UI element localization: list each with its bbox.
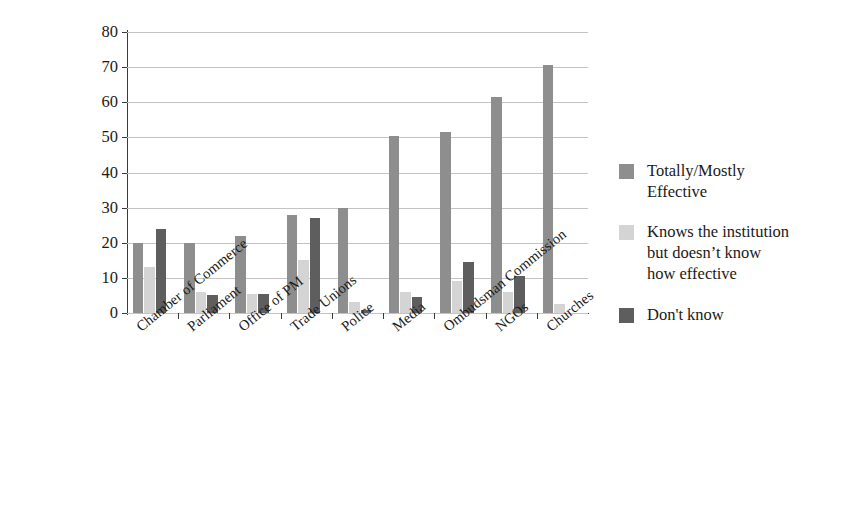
y-axis-tick-label: 80 bbox=[102, 24, 119, 41]
x-axis-tick-mark bbox=[383, 313, 384, 319]
y-axis-tick-label: 20 bbox=[102, 235, 119, 252]
y-axis-tick-label: 30 bbox=[102, 199, 119, 216]
legend-item: Knows the institution but doesn’t know h… bbox=[619, 221, 834, 284]
y-axis-tick-label: 70 bbox=[102, 59, 119, 76]
legend-color-swatch bbox=[619, 308, 634, 323]
bar bbox=[440, 132, 451, 313]
legend-color-swatch bbox=[619, 164, 634, 179]
gridline bbox=[127, 137, 588, 138]
y-axis-tick-mark bbox=[122, 102, 127, 103]
x-axis-tick-mark bbox=[332, 313, 333, 319]
y-axis-tick-label: 60 bbox=[102, 94, 119, 111]
x-axis-tick-mark bbox=[178, 313, 179, 319]
y-axis-tick-label: 40 bbox=[102, 164, 119, 181]
gridline bbox=[127, 32, 588, 33]
gridline bbox=[127, 208, 588, 209]
gridline bbox=[127, 243, 588, 244]
y-axis-tick-mark bbox=[122, 313, 127, 314]
legend-color-swatch bbox=[619, 225, 634, 240]
y-axis-tick-mark bbox=[122, 173, 127, 174]
bar bbox=[543, 65, 554, 313]
x-axis-tick-mark bbox=[434, 313, 435, 319]
legend-label: Don't know bbox=[647, 304, 724, 325]
gridline bbox=[127, 102, 588, 103]
legend-item: Totally/Mostly Effective bbox=[619, 160, 834, 202]
y-axis-tick-mark bbox=[122, 243, 127, 244]
bar bbox=[133, 243, 144, 313]
legend-item: Don't know bbox=[619, 304, 834, 325]
x-axis-tick-mark bbox=[281, 313, 282, 319]
gridline bbox=[127, 173, 588, 174]
y-axis-tick-mark bbox=[122, 278, 127, 279]
x-axis-tick-mark bbox=[486, 313, 487, 319]
y-axis-tick-mark bbox=[122, 32, 127, 33]
y-axis-tick-mark bbox=[122, 208, 127, 209]
gridline bbox=[127, 67, 588, 68]
y-axis-tick-label: 10 bbox=[102, 270, 119, 287]
y-axis-tick-mark bbox=[122, 137, 127, 138]
y-axis-tick-mark bbox=[122, 67, 127, 68]
chart-legend: Totally/Mostly EffectiveKnows the instit… bbox=[619, 160, 834, 344]
legend-label: Totally/Mostly Effective bbox=[647, 160, 745, 202]
x-axis-tick-mark bbox=[537, 313, 538, 319]
bar-chart: 01020304050607080 Chamber of CommercePar… bbox=[0, 0, 852, 520]
y-axis-tick-label: 50 bbox=[102, 129, 119, 146]
y-axis-tick-label: 0 bbox=[110, 305, 118, 322]
legend-label: Knows the institution but doesn’t know h… bbox=[647, 221, 789, 284]
bar bbox=[389, 136, 400, 313]
x-axis-tick-mark bbox=[229, 313, 230, 319]
